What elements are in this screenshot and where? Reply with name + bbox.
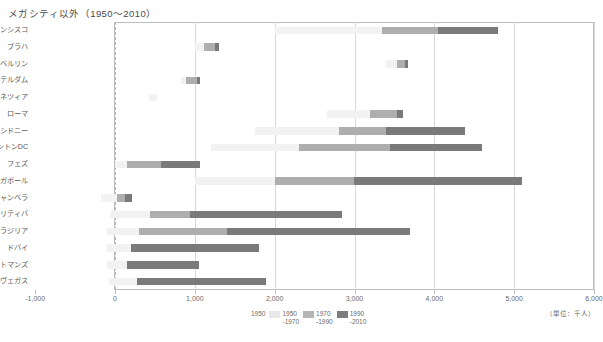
axis-tick	[195, 290, 196, 294]
bar-segment-1950	[275, 27, 383, 35]
legend-label-line1: 1950	[251, 310, 265, 317]
bar-segment-1990-2010	[125, 194, 132, 202]
bar-segment-1990-2010	[390, 144, 482, 152]
bar-segment-1990-2010	[227, 228, 411, 236]
bar-row: シドニー	[30, 123, 594, 140]
axis-tick-label: 6,000	[585, 295, 603, 302]
bar-segment-1970-1990	[150, 211, 190, 219]
bar-row: ローマ	[30, 106, 594, 123]
legend-label: 1990-2010	[350, 310, 367, 326]
bar-segment-1990-2010	[190, 211, 342, 219]
chart-root: メガシティ以外（1950〜2010） ①成熟型②人口減少型③近年成長型④加速成長…	[0, 0, 603, 342]
legend-label: 1970-1990	[316, 310, 333, 326]
legend-swatch	[269, 311, 280, 318]
bar-segment-1950	[327, 110, 370, 118]
bar-row: ヴェネツィア	[30, 89, 594, 106]
bar-segment-1950	[386, 60, 396, 68]
row-label: アムステルダム	[0, 72, 28, 89]
legend-item: 1970-1990	[303, 310, 333, 326]
axis-tick	[514, 290, 515, 294]
bar-segment-1970-1990	[397, 60, 405, 68]
chart-title: メガシティ以外（1950〜2010）	[8, 6, 156, 20]
bar-segment-1970-1990	[370, 110, 397, 118]
legend-label-line1: 1970	[316, 310, 330, 317]
bar-segment-1970-1990	[339, 127, 386, 135]
bar-segment-1950	[109, 278, 137, 286]
bar-row: フェズ	[30, 156, 594, 173]
bar-segment-1990-2010	[405, 60, 408, 68]
legend-item: 1950	[238, 310, 265, 318]
bar-row: サンフランシスコ	[30, 22, 594, 39]
axis-tick	[35, 290, 36, 294]
bar-segment-1950	[149, 94, 158, 102]
bar-segment-1970-1990	[204, 43, 214, 51]
stacked-bar	[101, 194, 132, 202]
bar-row: キャンベラ	[30, 190, 594, 207]
row-label: ブラジリア	[0, 223, 28, 240]
bar-row: アムステルダム	[30, 72, 594, 89]
gridline-6000	[594, 22, 595, 290]
legend-label: 1950	[251, 310, 265, 318]
row-label: ベルリン	[0, 56, 28, 73]
legend-swatch	[238, 311, 249, 318]
bar-segment-1950	[255, 127, 340, 135]
bar-row: クリティバ	[30, 206, 594, 223]
bar-segment-1990-2010	[386, 127, 464, 135]
bar-segment-1990-2010	[438, 27, 498, 35]
stacked-bar	[211, 144, 482, 152]
stacked-bar	[255, 127, 465, 135]
bar-segment-1950	[195, 177, 275, 185]
bar-segment-1950	[195, 43, 205, 51]
bar-segment-1970-1990	[382, 27, 438, 35]
axis-tick-label: 2,000	[266, 295, 284, 302]
bar-segment-1950	[110, 211, 150, 219]
bar-segment-1990-2010	[215, 43, 219, 51]
axis-tick-label: 3,000	[346, 295, 364, 302]
row-label: キャンベラ	[0, 190, 28, 207]
bar-row: ラスヴェガス	[30, 273, 594, 290]
axis-unit-label: （単位：千人）	[546, 308, 595, 318]
axis-tick-label: 1,000	[186, 295, 204, 302]
axis-tick-label: 5,000	[505, 295, 523, 302]
bar-segment-1950	[101, 194, 117, 202]
stacked-bar	[149, 94, 158, 102]
row-label: クリティバ	[0, 206, 28, 223]
stacked-bar	[109, 278, 266, 286]
stacked-bar	[115, 161, 200, 169]
axis-tick	[275, 290, 276, 294]
bar-row: ベルリン	[30, 56, 594, 73]
stacked-bar	[386, 60, 408, 68]
axis-tick-label: 0	[113, 295, 117, 302]
legend-label-line1: 1950	[282, 310, 296, 317]
bar-segment-1970-1990	[127, 161, 161, 169]
row-label: シドニー	[0, 123, 28, 140]
stacked-bar	[275, 27, 499, 35]
bar-segment-1970-1990	[275, 177, 355, 185]
legend: 19501950-19701970-19901990-2010	[238, 310, 366, 326]
bar-segment-1950	[107, 228, 139, 236]
bar-segment-1990-2010	[127, 261, 199, 269]
axis-tick	[115, 290, 116, 294]
bar-row: カトマンズ	[30, 257, 594, 274]
row-label: ラスヴェガス	[0, 273, 28, 290]
legend-label-line1: 1990	[350, 310, 364, 317]
bar-row: ブラジリア	[30, 223, 594, 240]
bar-row: プラハ	[30, 39, 594, 56]
bar-segment-1950	[107, 244, 131, 252]
legend-label-line2: -1990	[316, 318, 333, 326]
axis-tick	[355, 290, 356, 294]
stacked-bar	[327, 110, 404, 118]
bar-segment-1990-2010	[131, 244, 259, 252]
row-label: サンフランシスコ	[0, 22, 28, 39]
bar-segment-1970-1990	[186, 77, 197, 85]
axis-tick-label: 4,000	[426, 295, 444, 302]
stacked-bar	[181, 77, 200, 85]
bar-segment-1950	[107, 261, 127, 269]
stacked-bar	[107, 261, 199, 269]
bar-segment-1990-2010	[354, 177, 522, 185]
row-label: プラハ	[0, 39, 28, 56]
bar-segment-1990-2010	[161, 161, 199, 169]
legend-item: 1990-2010	[337, 310, 367, 326]
axis-tick	[434, 290, 435, 294]
legend-label: 1950-1970	[282, 310, 299, 326]
